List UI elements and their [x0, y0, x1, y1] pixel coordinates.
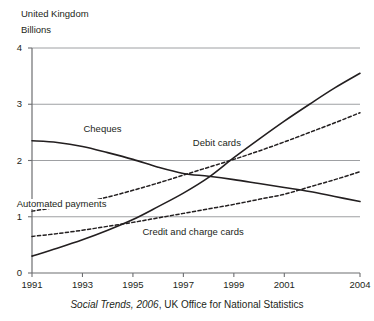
plot-area — [0, 0, 374, 321]
x-axis-tick-label: 1999 — [214, 280, 254, 290]
y-axis-tick-label: 3 — [6, 99, 22, 109]
series-label-automated-payments: Automated payments — [16, 199, 108, 209]
x-axis-tick-label: 1995 — [113, 280, 153, 290]
x-axis-tick-label: 1993 — [62, 280, 102, 290]
series-label-debit-cards: Debit cards — [192, 138, 242, 148]
source-note: Social Trends, 2006, UK Office for Natio… — [0, 299, 374, 311]
series-line-automated-payments — [32, 113, 360, 211]
x-axis-tick-label: 1997 — [163, 280, 203, 290]
x-axis-tick-label: 2001 — [264, 280, 304, 290]
y-axis-tick-label: 4 — [6, 43, 22, 53]
y-axis-tick-label: 1 — [6, 212, 22, 222]
x-axis-tick-label: 1991 — [12, 280, 52, 290]
source-rest: , UK Office for National Statistics — [159, 299, 304, 310]
y-axis-tick-label: 2 — [6, 156, 22, 166]
chart-figure: United Kingdom Billions 01234 1991199319… — [0, 0, 374, 321]
source-emphasis: Social Trends, 2006 — [70, 299, 158, 310]
series-label-credit-and-charge-cards: Credit and charge cards — [141, 227, 244, 237]
x-axis-tick-label: 2004 — [340, 280, 374, 290]
series-label-cheques: Cheques — [82, 124, 122, 134]
y-axis-tick-label: 0 — [6, 268, 22, 278]
